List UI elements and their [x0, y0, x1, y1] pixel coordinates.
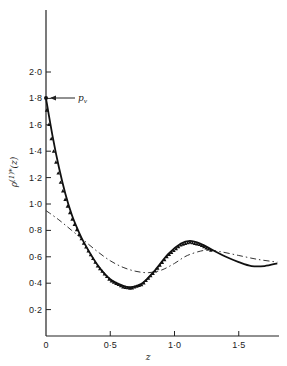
x-axis-label: z — [145, 352, 151, 362]
y-tick-label: 0·8 — [29, 225, 42, 235]
x-tick-label: 1·5 — [232, 340, 245, 350]
y-tick-label: 1·6 — [29, 120, 42, 130]
y-tick-label: 1·8 — [29, 93, 42, 103]
axes — [46, 10, 279, 336]
x-tick-label: 0 — [43, 340, 48, 350]
chart: 0·20·40·60·81·01·21·41·61·82·0 00·51·01·… — [0, 0, 287, 366]
x-tick-label: 0·5 — [104, 340, 117, 350]
y-tick-label: 0·4 — [29, 278, 42, 288]
y-tick-label: 0·6 — [29, 252, 42, 262]
series — [45, 98, 277, 289]
x-tick-label: 1·0 — [168, 340, 181, 350]
y-tick-label: 2·0 — [29, 67, 42, 77]
pv-label: pv — [78, 93, 88, 104]
y-tick-label: 1·4 — [29, 146, 42, 156]
pv-point — [44, 96, 48, 100]
y-axis-label: ρ(1)*(z) — [8, 156, 19, 188]
y-tick-label: 1·2 — [29, 173, 42, 183]
solid-curve — [46, 98, 277, 287]
triangle-markers — [45, 108, 213, 289]
x-ticks: 00·51·01·5 — [43, 331, 245, 350]
y-tick-label: 0·2 — [29, 305, 42, 315]
arrow-left-icon — [50, 96, 56, 101]
y-tick-label: 1·0 — [29, 199, 42, 209]
